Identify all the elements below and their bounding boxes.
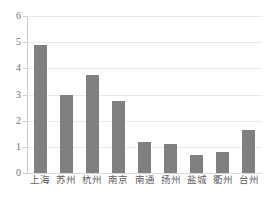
bar-chart-figure: 6 5 4 3 2 1 0 上海苏州杭州南京南通扬州盐城衢州台州 <box>0 0 270 203</box>
x-axis: 上海苏州杭州南京南通扬州盐城衢州台州 <box>27 175 262 197</box>
x-tick-label: 台州 <box>239 175 259 185</box>
x-tick-label: 上海 <box>30 175 50 185</box>
x-tick-label: 南通 <box>135 175 155 185</box>
bar <box>164 144 177 173</box>
y-tick-label-2: 2 <box>16 116 21 126</box>
bar <box>138 142 151 173</box>
bar <box>60 95 73 174</box>
y-tick-label-5: 5 <box>16 37 21 47</box>
x-tick-label: 杭州 <box>82 175 102 185</box>
y-tick-label-6: 6 <box>16 11 21 21</box>
bars-layer <box>27 16 262 173</box>
x-tick-label: 苏州 <box>56 175 76 185</box>
y-axis: 6 5 4 3 2 1 0 <box>0 0 27 203</box>
y-tick-label-3: 3 <box>16 90 21 100</box>
x-tick-label: 衢州 <box>213 175 233 185</box>
bar <box>242 130 255 173</box>
bar <box>112 101 125 173</box>
bar <box>190 155 203 173</box>
x-tick-label: 扬州 <box>161 175 181 185</box>
y-tick-label-1: 1 <box>16 142 21 152</box>
plot-area <box>27 16 262 173</box>
y-tick-label-0: 0 <box>16 168 21 178</box>
y-tick-label-4: 4 <box>16 63 21 73</box>
bar <box>216 152 229 173</box>
bar <box>86 75 99 173</box>
bar <box>34 45 47 173</box>
x-tick-label: 南京 <box>108 175 128 185</box>
x-tick-label: 盐城 <box>187 175 207 185</box>
